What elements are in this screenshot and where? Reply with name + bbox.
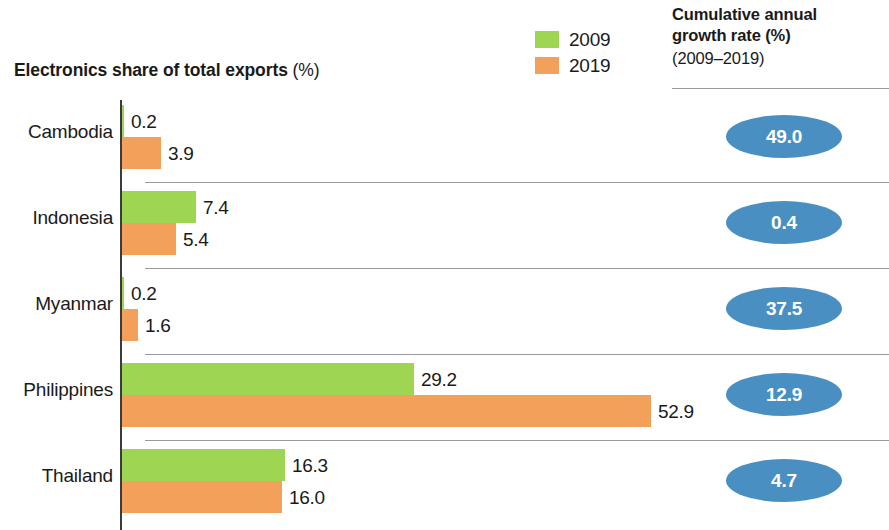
- bar-track-2019: 3.9: [122, 137, 194, 169]
- cagr-bubble: 49.0: [726, 115, 842, 158]
- cagr-header-period: (2009–2019): [672, 47, 889, 69]
- plot-area: Cambodia0.23.949.0Indonesia7.45.40.4Myan…: [0, 96, 889, 530]
- bar-track-2009: 16.3: [122, 449, 328, 481]
- cagr-value: 37.5: [766, 299, 802, 318]
- bar-track-2009: 0.2: [122, 277, 171, 309]
- cagr-bubble: 37.5: [726, 287, 842, 330]
- bar-track-2019: 52.9: [122, 395, 694, 427]
- legend: 2009 2019: [535, 26, 610, 78]
- bar-2009[interactable]: [122, 363, 414, 395]
- bar-2009[interactable]: [122, 105, 124, 137]
- bar-row: Cambodia0.23.949.0: [0, 96, 889, 182]
- bar-2019[interactable]: [122, 309, 138, 341]
- bar-track-2019: 1.6: [122, 309, 171, 341]
- cagr-column-header: Cumulative annual growth rate (%) (2009–…: [672, 4, 889, 69]
- bar-row: Philippines29.252.912.9: [0, 354, 889, 440]
- legend-item-2019: 2019: [535, 52, 610, 78]
- country-label: Philippines: [0, 380, 113, 399]
- bar-pair: 7.45.4: [122, 191, 229, 255]
- bar-value-2019: 5.4: [183, 230, 209, 249]
- bar-track-2009: 29.2: [122, 363, 694, 395]
- bar-pair: 0.21.6: [122, 277, 171, 341]
- bar-2019[interactable]: [122, 137, 161, 169]
- bar-value-2019: 1.6: [145, 316, 171, 335]
- cagr-value: 12.9: [766, 385, 802, 404]
- row-separator: [145, 182, 889, 183]
- country-label: Cambodia: [0, 122, 113, 141]
- bar-value-2009: 7.4: [203, 198, 229, 217]
- bar-2009[interactable]: [122, 191, 196, 223]
- bar-value-2009: 29.2: [421, 370, 457, 389]
- cagr-bubble: 4.7: [726, 459, 842, 502]
- bar-track-2009: 7.4: [122, 191, 229, 223]
- cagr-value: 49.0: [766, 127, 802, 146]
- legend-label-2009: 2009: [569, 30, 610, 49]
- row-separator: [145, 268, 889, 269]
- country-label: Thailand: [0, 466, 113, 485]
- legend-swatch-2019: [535, 57, 559, 74]
- bar-row: Indonesia7.45.40.4: [0, 182, 889, 268]
- chart-title: Electronics share of total exports (%): [14, 60, 319, 81]
- bar-2019[interactable]: [122, 481, 282, 513]
- row-separator: [145, 440, 889, 441]
- chart-title-unit: (%): [293, 60, 320, 80]
- bar-row: Myanmar0.21.637.5: [0, 268, 889, 354]
- bar-value-2019: 52.9: [658, 402, 694, 421]
- bar-value-2019: 16.0: [289, 488, 325, 507]
- cagr-value: 0.4: [771, 213, 797, 232]
- bar-2019[interactable]: [122, 223, 176, 255]
- bar-value-2009: 16.3: [292, 456, 328, 475]
- bar-row: Thailand16.316.04.7: [0, 440, 889, 526]
- country-label: Indonesia: [0, 208, 113, 227]
- cagr-value: 4.7: [771, 471, 797, 490]
- bar-track-2009: 0.2: [122, 105, 194, 137]
- legend-item-2009: 2009: [535, 26, 610, 52]
- bar-2009[interactable]: [122, 449, 285, 481]
- cagr-bubble: 12.9: [726, 373, 842, 416]
- cagr-header-line2: growth rate (%): [672, 25, 889, 46]
- bar-value-2009: 0.2: [131, 284, 157, 303]
- cagr-bubble: 0.4: [726, 201, 842, 244]
- country-label: Myanmar: [0, 294, 113, 313]
- legend-swatch-2009: [535, 31, 559, 48]
- bar-value-2019: 3.9: [168, 144, 194, 163]
- bar-pair: 0.23.9: [122, 105, 194, 169]
- bar-pair: 29.252.9: [122, 363, 694, 427]
- chart-title-main: Electronics share of total exports: [14, 60, 288, 80]
- bar-track-2019: 5.4: [122, 223, 229, 255]
- row-separator: [145, 354, 889, 355]
- bar-2009[interactable]: [122, 277, 124, 309]
- bar-track-2019: 16.0: [122, 481, 328, 513]
- bar-pair: 16.316.0: [122, 449, 328, 513]
- cagr-header-divider: [672, 88, 889, 89]
- bar-value-2009: 0.2: [131, 112, 157, 131]
- legend-label-2019: 2019: [569, 56, 610, 75]
- cagr-header-line1: Cumulative annual: [672, 4, 889, 25]
- bar-2019[interactable]: [122, 395, 651, 427]
